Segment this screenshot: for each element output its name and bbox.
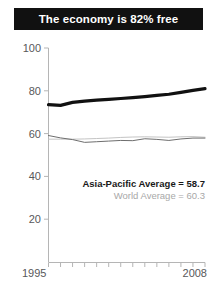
y-axis-ticks bbox=[44, 48, 49, 219]
annotation-asia-pacific-average: Asia-Pacific Average = 58.7 bbox=[82, 178, 205, 189]
x-axis-ticks bbox=[49, 263, 206, 268]
chart-container: The economy is 82% free 20406080100 1995… bbox=[0, 0, 215, 300]
y-axis-tick-label: 60 bbox=[29, 128, 41, 140]
y-axis-tick-label: 100 bbox=[23, 42, 41, 54]
chart-plot-area: 20406080100 1995 2008 Asia-Pacific Avera… bbox=[0, 0, 215, 300]
x-axis-end-label: 2008 bbox=[183, 267, 207, 279]
annotation-world-average: World Average = 60.3 bbox=[114, 190, 205, 201]
y-axis-tick-label: 20 bbox=[29, 213, 41, 225]
chart-series-group bbox=[49, 89, 206, 143]
x-axis-start-label: 1995 bbox=[22, 267, 46, 279]
chart-line-economy-score bbox=[49, 89, 206, 106]
y-axis-tick-label: 80 bbox=[29, 85, 41, 97]
y-axis-tick-label: 40 bbox=[29, 170, 41, 182]
y-axis-tick-labels: 20406080100 bbox=[23, 42, 41, 225]
